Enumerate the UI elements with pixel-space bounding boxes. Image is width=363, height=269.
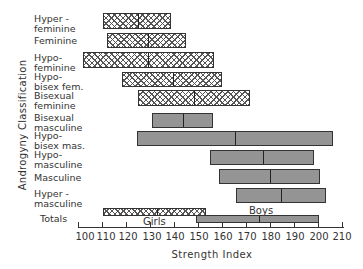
bar-hyper-feminine	[103, 13, 171, 29]
x-tick	[150, 222, 151, 227]
x-tick-label: 160	[213, 231, 232, 242]
median-line	[281, 189, 282, 202]
x-tick-label: 200	[309, 231, 328, 242]
bar-bisexual-feminine	[138, 90, 250, 106]
x-tick	[270, 222, 271, 227]
median-line	[138, 14, 139, 28]
bar-bisexual-masculine	[152, 113, 213, 128]
row-label-masculine: Masculine	[34, 173, 81, 183]
y-axis-label: Androgyny Classification	[17, 60, 28, 191]
row-label-hypo-masculine: Hypo- masculine	[34, 150, 82, 170]
row-label-hypo-bisex-fem: Hypo- bisex fem.	[34, 72, 83, 92]
x-tick-label: 170	[237, 231, 256, 242]
row-label-hypo-feminine: Hypo- feminine	[34, 53, 76, 73]
bar-feminine	[107, 33, 186, 48]
median-line	[148, 53, 149, 67]
x-tick	[222, 222, 223, 227]
annotation-girls: Girls	[143, 216, 166, 227]
x-tick	[246, 222, 247, 227]
row-label-hypo-bisex-mas: Hypo- bisex mas.	[34, 131, 85, 151]
bar-hypo-bisex-mas	[137, 131, 333, 146]
x-tick	[294, 222, 295, 227]
x-tick-label: 190	[285, 231, 304, 242]
x-tick-label: 130	[142, 231, 161, 242]
x-tick	[342, 222, 343, 227]
x-tick-label: 110	[96, 231, 115, 242]
median-line	[235, 132, 236, 145]
row-label-bisexual-feminine: Bisexual feminine	[34, 91, 76, 111]
x-tick	[102, 222, 103, 227]
bar-totals-boys	[196, 215, 319, 223]
median-line	[157, 209, 158, 215]
bar-hyper-masculine	[236, 188, 326, 203]
x-tick-label: 180	[261, 231, 280, 242]
x-tick-label: 120	[118, 231, 137, 242]
bar-totals-girls	[103, 208, 206, 216]
annotation-boys: Boys	[249, 205, 273, 216]
x-tick	[198, 222, 199, 227]
bar-hypo-bisex-fem	[122, 72, 222, 87]
median-line	[259, 216, 260, 222]
row-label-totals: Totals	[40, 214, 67, 224]
median-line	[263, 151, 264, 164]
median-line	[173, 73, 174, 86]
row-label-hyper-masculine: Hyper - masculine	[34, 189, 82, 209]
median-line	[194, 91, 195, 105]
row-label-feminine: Feminine	[34, 36, 77, 46]
x-tick	[126, 222, 127, 227]
median-line	[270, 170, 271, 183]
bar-hypo-masculine	[210, 150, 314, 165]
x-tick	[174, 222, 175, 227]
x-tick-label: 100	[75, 231, 94, 242]
x-tick	[78, 222, 79, 227]
x-tick-label: 140	[165, 231, 184, 242]
bar-masculine	[219, 169, 320, 184]
x-tick-label: 150	[189, 231, 208, 242]
median-line	[183, 114, 184, 127]
x-tick-label: 210	[332, 231, 351, 242]
x-axis-line	[78, 227, 344, 228]
x-axis-label: Strength Index	[172, 249, 253, 260]
row-label-hyper-feminine: Hyper - feminine	[34, 14, 76, 34]
median-line	[148, 34, 149, 47]
bar-hypo-feminine	[83, 52, 214, 68]
x-tick	[318, 222, 319, 227]
